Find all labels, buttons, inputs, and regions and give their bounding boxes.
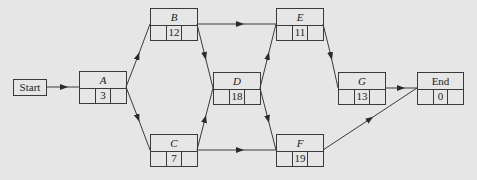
node-name: F	[277, 135, 323, 152]
node-name: G	[339, 73, 385, 90]
node-g: G 13	[338, 72, 386, 105]
node-name: E	[277, 9, 323, 26]
node-duration: 3	[95, 88, 110, 103]
node-c: C 7	[150, 134, 198, 167]
node-name: B	[151, 9, 197, 26]
node-name: D	[214, 73, 260, 90]
node-duration: 12	[166, 25, 181, 40]
node-end: End 0	[417, 72, 464, 105]
node-b: B 12	[150, 8, 198, 41]
node-duration: 0	[433, 89, 448, 104]
edge-d-e	[260, 24, 276, 88]
node-name: C	[151, 135, 197, 152]
edge-a-b	[126, 24, 150, 87]
node-name: End	[418, 73, 463, 90]
node-duration: 13	[354, 89, 369, 104]
edge-e-g	[323, 24, 338, 88]
node-duration: 18	[229, 89, 244, 104]
edge-b-d	[197, 24, 213, 88]
node-a: A 3	[79, 71, 127, 104]
node-e: E 11	[276, 8, 324, 41]
node-f: F 19	[276, 134, 324, 167]
start-node: Start	[13, 79, 47, 96]
node-duration: 19	[292, 151, 307, 166]
node-duration: 11	[292, 25, 307, 40]
edge-a-c	[126, 87, 150, 150]
node-duration: 7	[166, 151, 181, 166]
edge-c-d	[197, 88, 213, 150]
edge-d-f	[260, 88, 276, 150]
node-name: A	[80, 72, 126, 89]
node-d: D 18	[213, 72, 261, 105]
